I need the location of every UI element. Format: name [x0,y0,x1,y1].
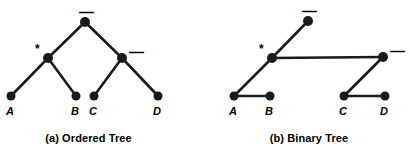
tree-node [267,53,277,63]
operator-label-star: * [259,43,264,55]
leaf-label-d: D [153,105,161,117]
operator-label-star: * [35,43,40,55]
leaf-label-c: C [339,105,347,117]
operator-label-minus: — [390,43,405,58]
caption-ordered-tree: (a) Ordered Tree [0,132,189,144]
tree-node [7,92,16,101]
tree-edge [272,57,383,58]
tree-edge [344,57,383,96]
leaf-label-a: A [6,105,14,117]
leaf-label-b: B [71,105,79,117]
tree-node [340,92,349,101]
tree-edge [234,58,272,96]
tree-edge [48,58,76,96]
tree-node [266,92,275,101]
tree-edge [48,22,85,58]
tree-node [378,52,388,62]
caption-binary-tree: (b) Binary Tree [208,132,410,144]
tree-node [43,53,53,63]
tree-edge [85,22,122,58]
operator-label-minus: — [79,4,94,19]
tree-node [154,92,163,101]
tree-node [72,92,81,101]
tree-edge [11,58,48,96]
operator-label-minus: — [302,3,317,18]
tree-edge [272,21,308,58]
leaf-label-c: C [89,105,97,117]
leaf-label-d: D [380,105,388,117]
leaf-label-b: B [265,105,273,117]
operator-label-minus: — [129,44,144,59]
tree-node [381,92,390,101]
leaf-label-a: A [229,105,237,117]
tree-node [90,92,99,101]
ordered-tree-graphic [0,0,201,130]
panel-binary-tree: (b) Binary Tree —*—ABCD [201,0,403,161]
tree-edge [122,58,158,96]
tree-node [117,53,127,63]
panel-ordered-tree: (a) Ordered Tree —*—ABCD [0,0,201,161]
tree-node [230,92,239,101]
tree-edge [94,58,122,96]
